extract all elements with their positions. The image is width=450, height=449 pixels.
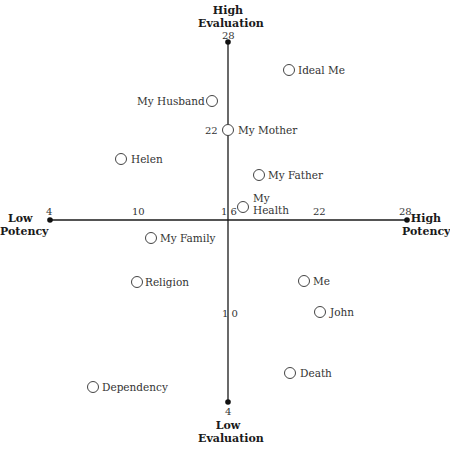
high-evaluation-title: High Evaluation (198, 4, 258, 30)
axis-title-line: Low (0, 212, 48, 225)
axis-title-line: High (198, 4, 258, 17)
marker-dependency (87, 381, 99, 393)
marker-john (314, 306, 326, 318)
marker-helen (115, 153, 127, 165)
axis-title-line: Evaluation (198, 432, 258, 445)
label-john: John (330, 306, 354, 318)
label-my-health: My Health (253, 192, 289, 216)
marker-me (298, 275, 310, 287)
label-my-family: My Family (160, 232, 215, 244)
axis-endpoint-dot (225, 399, 231, 405)
marker-my-mother (222, 124, 234, 136)
tick-label: 22 (313, 206, 326, 217)
axis-title-line: Potency (0, 225, 48, 238)
tick-label: 4 (225, 406, 231, 417)
label-dependency: Dependency (102, 381, 168, 393)
marker-my-health (237, 201, 249, 213)
marker-ideal-me (283, 64, 295, 76)
label-my-husband: My Husband (137, 95, 205, 107)
label-helen: Helen (131, 153, 163, 165)
axis-title-line: Potency (402, 225, 450, 238)
tick-label: 1 0 (222, 308, 238, 319)
tick-label: 10 (132, 206, 145, 217)
label-ideal-me: Ideal Me (298, 64, 345, 76)
tick-label: 28 (222, 30, 235, 41)
marker-religion (131, 276, 143, 288)
tick-label: 28 (399, 206, 412, 217)
low-potency-title: Low Potency (0, 212, 48, 238)
label-my-mother: My Mother (238, 124, 297, 136)
axis-title-line: Low (198, 419, 258, 432)
label-my-father: My Father (268, 169, 323, 181)
marker-my-family (145, 232, 157, 244)
axis-title-line: Evaluation (198, 17, 258, 30)
axis-endpoint-dot (47, 217, 53, 223)
tick-label: 4 (46, 206, 52, 217)
marker-death (284, 367, 296, 379)
label-death: Death (300, 367, 332, 379)
label-religion: Religion (145, 276, 189, 288)
marker-my-husband (206, 95, 218, 107)
label-me: Me (313, 275, 330, 287)
low-evaluation-title: Low Evaluation (198, 419, 258, 445)
marker-my-father (253, 169, 265, 181)
tick-label: 22 (205, 125, 218, 136)
tick-label: 1 6 (221, 206, 237, 217)
